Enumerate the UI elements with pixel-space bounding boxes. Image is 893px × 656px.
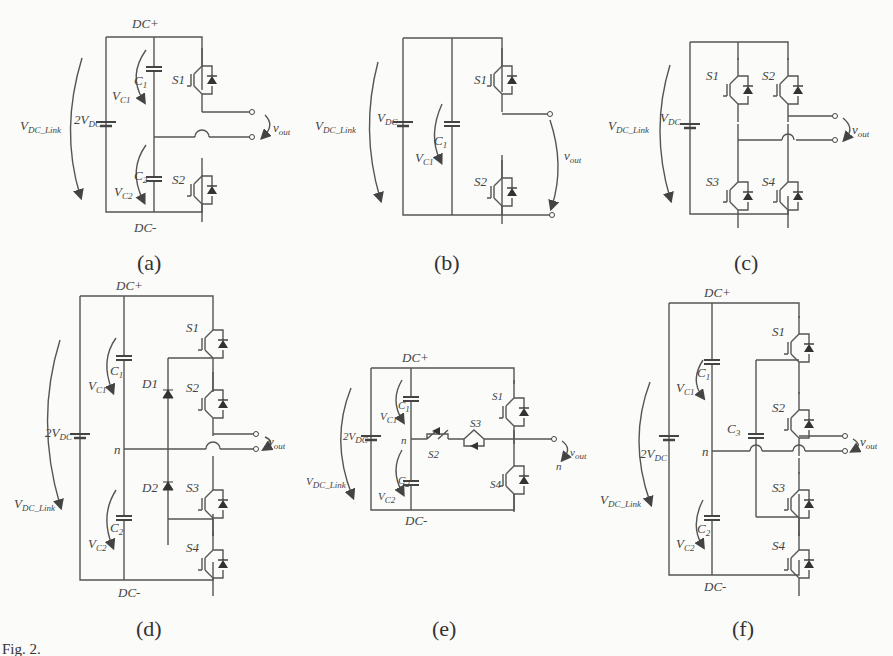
- svg-text:S4: S4: [772, 538, 786, 553]
- svg-text:S3: S3: [706, 174, 720, 189]
- caption-a: (a): [137, 250, 161, 275]
- svg-text:VDC_Link: VDC_Link: [608, 118, 650, 135]
- svg-text:S3: S3: [772, 480, 786, 495]
- panel-f: DC+ DC- 2VDC VDC_Link n C1 VC1 C2 VC2 C3…: [600, 285, 878, 641]
- svg-text:C1: C1: [110, 363, 123, 380]
- svg-text:2VDC: 2VDC: [45, 425, 73, 442]
- svg-text:C1: C1: [434, 133, 447, 150]
- panel-c: VDC VDC_Link S1 S2 S3 S4 vout (c): [608, 42, 870, 275]
- dc-plus-label: DC+: [131, 16, 159, 31]
- dc-minus-label: DC-: [133, 220, 156, 235]
- svg-text:VC2: VC2: [114, 184, 133, 201]
- svg-text:VDC_Link: VDC_Link: [14, 496, 56, 513]
- svg-text:vout: vout: [860, 434, 878, 451]
- svg-text:S1: S1: [186, 320, 199, 335]
- caption-e: (e): [432, 616, 456, 641]
- svg-text:VDC_Link: VDC_Link: [306, 475, 347, 490]
- svg-text:S2: S2: [172, 172, 186, 187]
- svg-text:S2: S2: [428, 448, 440, 460]
- svg-text:n: n: [114, 442, 121, 457]
- svg-text:D2: D2: [141, 480, 158, 495]
- svg-text:VC1: VC1: [88, 378, 106, 395]
- svg-text:n: n: [401, 434, 407, 446]
- svg-text:vout: vout: [268, 434, 286, 451]
- svg-text:C1: C1: [697, 365, 710, 382]
- svg-text:VDC_Link: VDC_Link: [20, 118, 62, 135]
- svg-text:DC+: DC+: [115, 278, 143, 293]
- svg-text:S4: S4: [762, 174, 776, 189]
- svg-text:VDC_Link: VDC_Link: [315, 118, 357, 135]
- svg-text:S1: S1: [474, 72, 487, 87]
- panel-e: DC+ DC- 2VDC VDC_Link n C1 VC1 C2 VC2 S1…: [306, 350, 587, 641]
- svg-text:S1: S1: [772, 324, 785, 339]
- svg-text:C1: C1: [134, 73, 147, 90]
- svg-text:vout: vout: [852, 122, 870, 139]
- svg-text:S2: S2: [474, 174, 488, 189]
- svg-text:n: n: [556, 460, 562, 472]
- panel-a: DC+ DC- 2VDC VDC_Link C1 VC1 C2 VC2 S1 S…: [20, 16, 291, 275]
- svg-text:vout: vout: [273, 120, 291, 137]
- svg-text:VDC: VDC: [660, 110, 681, 127]
- svg-text:S1: S1: [172, 72, 185, 87]
- svg-text:S3: S3: [186, 480, 200, 495]
- svg-text:S3: S3: [470, 417, 482, 429]
- svg-text:D1: D1: [141, 376, 158, 391]
- svg-text:S1: S1: [492, 390, 503, 402]
- svg-text:DC+: DC+: [703, 285, 731, 300]
- svg-text:2VDC: 2VDC: [343, 430, 369, 445]
- svg-text:S2: S2: [762, 68, 776, 83]
- caption-f: (f): [732, 616, 754, 641]
- svg-text:S4: S4: [490, 478, 502, 490]
- svg-text:DC+: DC+: [401, 350, 429, 365]
- svg-text:VDC_Link: VDC_Link: [600, 492, 642, 509]
- svg-text:VDC: VDC: [377, 110, 398, 127]
- svg-text:S2: S2: [186, 380, 200, 395]
- svg-text:VC2: VC2: [378, 490, 396, 505]
- svg-text:DC-: DC-: [404, 513, 427, 528]
- svg-text:C3: C3: [727, 421, 741, 438]
- svg-text:vout: vout: [570, 446, 587, 461]
- panel-b: VDC VDC_Link C1 VC1 S1 S2 vout (b): [315, 38, 582, 275]
- svg-text:2VDC: 2VDC: [74, 112, 102, 129]
- svg-text:VC2: VC2: [88, 536, 107, 553]
- caption-c: (c): [734, 250, 758, 275]
- svg-text:DC-: DC-: [117, 585, 140, 600]
- svg-text:VC1: VC1: [380, 410, 397, 425]
- svg-text:VC1: VC1: [112, 88, 130, 105]
- svg-text:VC1: VC1: [415, 150, 433, 167]
- svg-text:S4: S4: [186, 540, 200, 555]
- svg-text:2VDC: 2VDC: [640, 446, 668, 463]
- svg-text:DC-: DC-: [703, 579, 726, 594]
- svg-text:S1: S1: [706, 68, 719, 83]
- svg-text:S2: S2: [772, 400, 786, 415]
- converter-topologies-figure: DC+ DC- 2VDC VDC_Link C1 VC1 C2 VC2 S1 S…: [0, 0, 893, 656]
- caption-d: (d): [136, 616, 162, 641]
- svg-text:VC2: VC2: [676, 536, 695, 553]
- svg-text:C2: C2: [134, 168, 148, 185]
- caption-b: (b): [434, 250, 460, 275]
- svg-text:vout: vout: [564, 148, 582, 165]
- svg-text:C2: C2: [110, 520, 124, 537]
- svg-text:C2: C2: [697, 521, 711, 538]
- svg-text:n: n: [702, 444, 709, 459]
- panel-d: DC+ DC- 2VDC VDC_Link n C1 VC1 C2 VC2 D1…: [14, 278, 286, 641]
- figure-caption: Fig. 2.: [2, 641, 41, 656]
- svg-text:VC1: VC1: [676, 380, 694, 397]
